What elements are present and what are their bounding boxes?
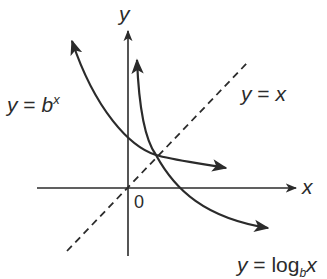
- origin-label: 0: [134, 193, 144, 211]
- logarithm-label-base: b: [299, 266, 306, 279]
- exponential-label: y = bx: [7, 94, 60, 115]
- exponential-label-eq: =: [23, 93, 35, 116]
- exponential-label-var: y: [7, 93, 18, 116]
- logarithm-label-arg: x: [306, 253, 317, 276]
- exponential-curve: [72, 41, 226, 168]
- graph-canvas: [0, 0, 327, 279]
- identity-label-eq: =: [257, 82, 269, 105]
- y-axis-label: y: [119, 3, 130, 24]
- exponential-label-base: b: [41, 93, 53, 116]
- exponential-label-exp: x: [53, 92, 60, 107]
- identity-label-rhs: x: [275, 82, 286, 105]
- logarithm-label: y = logbx: [237, 254, 317, 275]
- logarithm-label-eq: =: [253, 253, 265, 276]
- identity-label-var: y: [241, 82, 252, 105]
- identity-label: y = x: [241, 83, 286, 104]
- logarithm-label-var: y: [237, 253, 248, 276]
- x-axis-label: x: [302, 176, 313, 197]
- logarithm-label-func: log: [271, 253, 299, 276]
